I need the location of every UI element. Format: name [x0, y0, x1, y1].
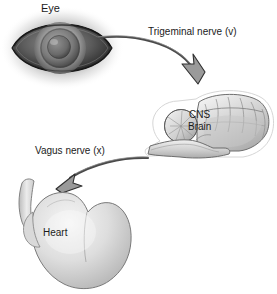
- vagus-nerve-label: Vagus nerve (x): [35, 145, 105, 156]
- vagus-nerve-arrow: [56, 157, 148, 193]
- eye-label: Eye: [41, 2, 60, 14]
- brain-label-line-cns: CNS: [188, 109, 211, 121]
- heart-label: Heart: [43, 227, 67, 238]
- trigeminal-nerve-label: Trigeminal nerve (v): [148, 26, 237, 37]
- eye-illustration: [0, 6, 124, 90]
- brain-label-line-brain: Brain: [188, 121, 211, 133]
- heart-illustration: [19, 179, 131, 289]
- brain-label: CNS Brain: [188, 109, 211, 133]
- anatomy-diagram: Eye Trigeminal nerve (v) Vagus nerve (x)…: [0, 0, 277, 294]
